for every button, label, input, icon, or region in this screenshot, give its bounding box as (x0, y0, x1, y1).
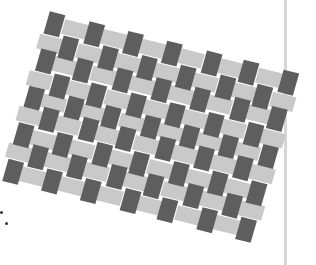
mark-dot (0, 211, 3, 214)
vertical-rule-line (284, 0, 287, 265)
woven-strip-pattern (1, 14, 300, 240)
mark-dot (5, 222, 8, 225)
